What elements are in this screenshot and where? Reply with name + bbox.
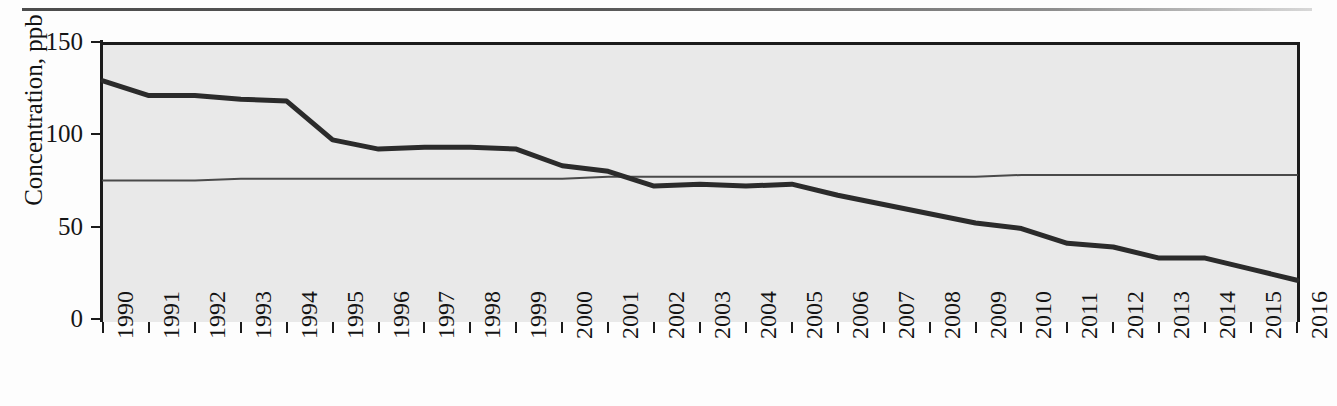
x-tick-mark xyxy=(653,322,655,333)
y-tick-label: 50 xyxy=(0,214,83,239)
page-top-rule xyxy=(22,8,1312,11)
x-tick-mark xyxy=(423,322,425,333)
x-tick-mark xyxy=(102,322,104,333)
x-tick-mark xyxy=(1296,322,1298,333)
x-tick-mark xyxy=(1112,322,1114,333)
x-tick-mark xyxy=(699,322,701,333)
y-tick-mark xyxy=(91,226,102,228)
x-tick-mark xyxy=(929,322,931,333)
x-tick-mark xyxy=(286,322,288,333)
y-tick-mark xyxy=(91,41,102,43)
concentration-line-series xyxy=(103,81,1297,280)
x-tick-mark xyxy=(469,322,471,333)
y-tick-mark xyxy=(91,318,102,320)
x-tick-mark xyxy=(1020,322,1022,333)
x-tick-mark xyxy=(837,322,839,333)
x-tick-mark xyxy=(561,322,563,333)
x-tick-mark xyxy=(515,322,517,333)
x-tick-mark xyxy=(194,322,196,333)
x-tick-mark xyxy=(745,322,747,333)
y-tick-label: 0 xyxy=(0,306,83,331)
x-tick-mark xyxy=(1250,322,1252,333)
x-tick-mark xyxy=(1066,322,1068,333)
x-tick-mark xyxy=(332,322,334,333)
series-plot xyxy=(103,42,1297,319)
x-tick-mark xyxy=(975,322,977,333)
x-tick-mark xyxy=(883,322,885,333)
x-tick-mark xyxy=(607,322,609,333)
x-tick-mark xyxy=(378,322,380,333)
x-tick-mark xyxy=(240,322,242,333)
x-tick-mark xyxy=(791,322,793,333)
y-tick-label: 150 xyxy=(0,29,83,54)
reference-line-series xyxy=(103,175,1297,181)
x-tick-mark xyxy=(1158,322,1160,333)
x-tick-label: 2016 xyxy=(1306,291,1333,339)
figure-container: Concentration, ppb 050100150 19901991199… xyxy=(0,0,1337,406)
x-tick-mark xyxy=(1204,322,1206,333)
y-tick-mark xyxy=(91,133,102,135)
y-tick-label: 100 xyxy=(0,121,83,146)
x-tick-mark xyxy=(148,322,150,333)
